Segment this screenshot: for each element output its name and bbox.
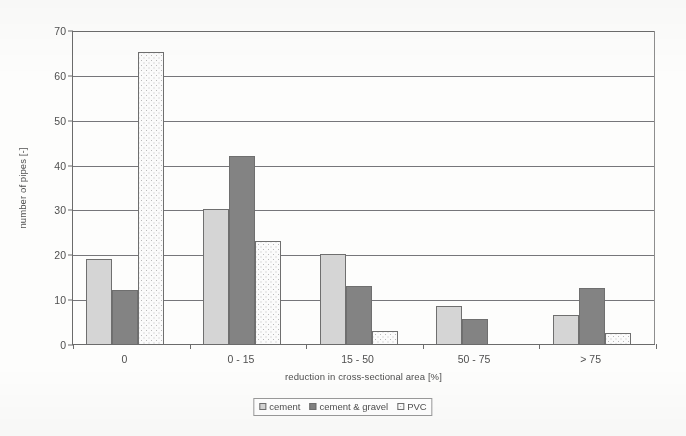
bar-cement-gravel[interactable]	[579, 288, 605, 344]
x-tick-mark	[423, 344, 424, 349]
y-tick-mark	[68, 31, 73, 32]
plot-right-edge	[654, 31, 655, 344]
bar-cement-gravel[interactable]	[346, 286, 372, 344]
plot-area: 010203040506070	[72, 31, 655, 345]
bar-cement[interactable]	[86, 259, 112, 344]
bar-group	[553, 31, 631, 344]
y-tick-label: 70	[54, 26, 66, 37]
x-tick-label: 50 - 75	[458, 353, 491, 365]
y-tick-mark	[68, 255, 73, 256]
bar-cement[interactable]	[436, 306, 462, 344]
bar-pvc[interactable]	[605, 333, 631, 344]
bar-cement-gravel[interactable]	[112, 290, 138, 344]
legend-entry-cement[interactable]: cement	[259, 401, 300, 412]
legend-swatch-icon	[309, 403, 316, 410]
x-tick-label: 0	[121, 353, 127, 365]
y-tick-label: 60	[54, 71, 66, 82]
chart-legend: cementcement & gravelPVC	[253, 398, 432, 416]
legend-label: cement	[269, 401, 300, 412]
bar-cement[interactable]	[203, 209, 229, 344]
x-tick-mark	[306, 344, 307, 349]
y-tick-label: 40	[54, 160, 66, 171]
bar-pvc[interactable]	[255, 241, 281, 344]
bar-group	[320, 31, 398, 344]
x-tick-mark	[190, 344, 191, 349]
bar-cement-gravel[interactable]	[462, 319, 488, 344]
x-tick-mark	[656, 344, 657, 349]
legend-entry-pvc[interactable]: PVC	[397, 401, 427, 412]
y-tick-label: 20	[54, 250, 66, 261]
bar-cement[interactable]	[320, 254, 346, 344]
y-tick-mark	[68, 75, 73, 76]
y-tick-label: 50	[54, 115, 66, 126]
y-tick-mark	[68, 120, 73, 121]
legend-swatch-icon	[259, 403, 266, 410]
y-tick-mark	[68, 300, 73, 301]
bar-group	[436, 31, 514, 344]
y-tick-label: 30	[54, 205, 66, 216]
y-tick-label: 10	[54, 295, 66, 306]
x-axis-title: reduction in cross-sectional area [%]	[72, 371, 655, 382]
bar-group	[203, 31, 281, 344]
legend-entry-cement-gravel[interactable]: cement & gravel	[309, 401, 388, 412]
bar-cement-gravel[interactable]	[229, 156, 255, 344]
bar-group	[86, 31, 164, 344]
x-tick-label: 15 - 50	[341, 353, 374, 365]
legend-swatch-icon	[397, 403, 404, 410]
legend-label: PVC	[407, 401, 427, 412]
y-tick-mark	[68, 210, 73, 211]
x-tick-mark	[539, 344, 540, 349]
bar-pvc[interactable]	[372, 331, 398, 344]
x-tick-label: > 75	[580, 353, 601, 365]
y-axis-title: number of pipes [-]	[17, 147, 28, 228]
bar-cement[interactable]	[553, 315, 579, 344]
x-tick-mark	[73, 344, 74, 349]
legend-label: cement & gravel	[319, 401, 388, 412]
bar-chart-figure: number of pipes [-] 010203040506070 redu…	[0, 0, 686, 436]
y-tick-mark	[68, 165, 73, 166]
y-tick-label: 0	[60, 340, 66, 351]
bar-pvc[interactable]	[138, 52, 164, 344]
x-tick-label: 0 - 15	[227, 353, 254, 365]
